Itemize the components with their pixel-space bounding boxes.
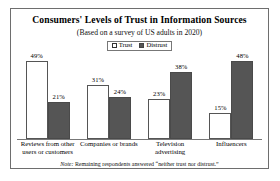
bar-value-distrust: 38% [175, 64, 187, 71]
plot-area: 49% 21% 31% 24% [15, 53, 264, 168]
bar-distrust [170, 72, 192, 139]
bar-col-distrust: 48% [231, 53, 253, 139]
bar-col-trust: 49% [26, 53, 48, 139]
bar-trust [209, 113, 231, 139]
bar-trust [26, 61, 48, 139]
legend-swatch-trust-icon [112, 43, 117, 48]
bar-value-trust: 31% [92, 77, 104, 84]
bar-value-trust: 15% [214, 105, 226, 112]
bar-group-television: 23% 38% [140, 53, 201, 139]
bar-trust [87, 85, 109, 139]
bar-distrust [231, 61, 253, 139]
category-label-television: Television advertising [140, 140, 201, 156]
bar-col-trust: 31% [87, 53, 109, 139]
bar-group-companies: 31% 24% [78, 53, 139, 139]
bar-col-distrust: 38% [170, 53, 192, 139]
bar-pair: 31% 24% [87, 53, 131, 139]
bar-pair: 23% 38% [148, 53, 192, 139]
category-label-companies: Companies or brands [78, 140, 139, 148]
bar-value-distrust: 48% [236, 53, 248, 60]
bar-groups: 49% 21% 31% 24% [17, 53, 262, 139]
bar-distrust [109, 97, 131, 139]
bar-pair: 15% 48% [209, 53, 253, 139]
legend-label-distrust: Distrust [146, 42, 167, 49]
legend-item-trust: Trust [112, 42, 133, 49]
category-label-reviews: Reviews from other users or customers [17, 140, 78, 156]
chart-figure: Consumers' Levels of Trust in Informatio… [10, 8, 269, 169]
bar-value-distrust: 21% [53, 94, 65, 101]
category-labels: Reviews from other users or customers Co… [17, 140, 262, 158]
bar-value-trust: 49% [31, 53, 43, 60]
bar-trust [148, 99, 170, 139]
bar-pair: 49% 21% [26, 53, 70, 139]
bar-value-trust: 23% [153, 91, 165, 98]
legend-swatch-distrust-icon [139, 43, 144, 48]
legend-item-distrust: Distrust [139, 42, 167, 49]
bar-value-distrust: 24% [114, 89, 126, 96]
bar-distrust [48, 102, 70, 139]
bar-col-distrust: 24% [109, 53, 131, 139]
chart-subtitle: (Based on a survey of US adults in 2020) [11, 29, 268, 37]
chart-legend: Trust Distrust [107, 41, 173, 51]
bar-col-trust: 15% [209, 53, 231, 139]
bar-col-distrust: 21% [48, 53, 70, 139]
bar-group-influencers: 15% 48% [201, 53, 262, 139]
bar-group-reviews: 49% 21% [17, 53, 78, 139]
bar-col-trust: 23% [148, 53, 170, 139]
category-label-influencers: Influencers [201, 140, 262, 148]
chart-legend-wrap: Trust Distrust [11, 41, 268, 51]
chart-note-text: Remaining respondents answered “neither … [73, 161, 218, 167]
chart-note: Note: Remaining respondents answered “ne… [15, 162, 264, 168]
legend-label-trust: Trust [119, 42, 133, 49]
chart-note-prefix: Note: [60, 161, 73, 167]
chart-title: Consumers' Levels of Trust in Informatio… [11, 15, 268, 26]
